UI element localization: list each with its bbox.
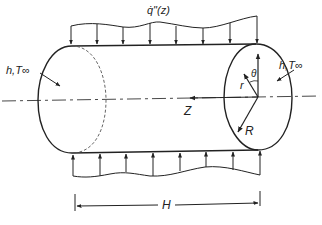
heat-flux-bottom xyxy=(73,151,260,177)
length-label: H xyxy=(162,198,171,212)
convection-left-label: h,T∞ xyxy=(6,64,30,76)
radius-label: R xyxy=(245,124,254,138)
axial-coordinate-label: Z xyxy=(183,104,192,118)
heat-flux-top xyxy=(71,16,257,44)
heat-flux-label: q̇"(z) xyxy=(147,4,170,16)
cylinder-diagram: q̇"(z) h,T∞ h,T∞ Z r θ R H xyxy=(0,0,322,225)
angle-label: θ xyxy=(251,68,257,79)
convection-right-label: h,T∞ xyxy=(279,59,303,71)
centerline xyxy=(2,96,320,101)
radial-coordinate-label: r xyxy=(240,79,245,91)
